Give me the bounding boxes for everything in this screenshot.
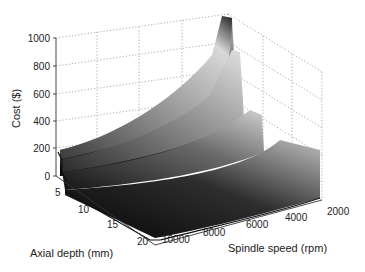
z-axis-label: Cost ($)	[10, 89, 22, 128]
z-tick-labels: 1000 800 600 400 200 0	[28, 33, 51, 182]
y-tick: 20	[137, 236, 149, 247]
z-tick: 1000	[28, 33, 51, 44]
x-tick: 10000	[162, 234, 190, 245]
x-tick: 6000	[246, 219, 269, 230]
y-axis-label: Axial depth (mm)	[30, 247, 113, 259]
y-tick: 15	[107, 219, 119, 230]
z-tick: 800	[33, 61, 50, 72]
surface-plot: 1000 800 600 400 200 0 Cost ($) 5 10 15 …	[0, 0, 365, 272]
x-tick: 2000	[327, 206, 350, 217]
y-tick: 5	[55, 187, 61, 198]
x-tick: 4000	[285, 212, 308, 223]
x-axis-label: Spindle speed (rpm)	[228, 242, 327, 254]
x-tick: 8000	[203, 227, 226, 238]
z-tick: 0	[44, 171, 50, 182]
y-tick: 10	[78, 204, 90, 215]
z-tick: 600	[33, 89, 50, 100]
z-tick: 200	[33, 143, 50, 154]
z-tick: 400	[33, 116, 50, 127]
